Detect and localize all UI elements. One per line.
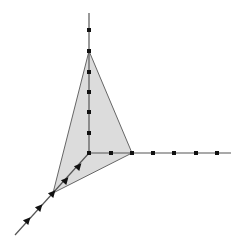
axes xyxy=(15,13,231,235)
x-axis-tick-dot xyxy=(215,151,219,155)
z-axis-tick-dot xyxy=(87,131,91,135)
z-axis-tick-dot xyxy=(87,28,91,32)
x-axis-tick-dot xyxy=(130,151,134,155)
y-axis-tick-triangle xyxy=(23,217,30,225)
x-axis-tick-dot xyxy=(172,151,176,155)
origin-dot xyxy=(87,151,91,155)
coordinate-diagram xyxy=(0,0,246,247)
z-axis-tick-dot xyxy=(87,90,91,94)
simplex-face xyxy=(53,51,132,193)
x-axis-tick-dot xyxy=(194,151,198,155)
x-axis-tick-dot xyxy=(151,151,155,155)
x-axis-tick-dot xyxy=(109,151,113,155)
simplex-triangle xyxy=(53,51,132,193)
diagram-canvas xyxy=(0,0,246,247)
z-axis-tick-dot xyxy=(87,70,91,74)
z-axis-tick-dot xyxy=(87,110,91,114)
z-axis-tick-dot xyxy=(87,49,91,53)
